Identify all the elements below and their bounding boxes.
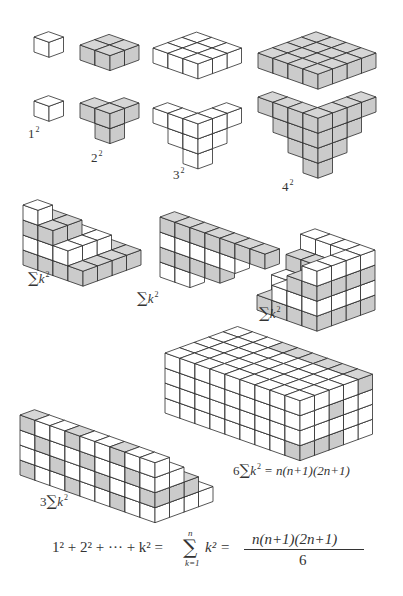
label-exp: 2 xyxy=(277,305,281,314)
fraction-bar xyxy=(244,549,364,550)
label-exp: 2 xyxy=(46,270,50,279)
formula-sum-term: k² = xyxy=(205,539,230,556)
label-var: k xyxy=(39,271,45,286)
label-exp: 2 xyxy=(155,290,159,299)
label-base: 1 xyxy=(28,126,35,141)
square-4-flat xyxy=(258,32,376,89)
label-rhs: = n(n+1)(2n+1) xyxy=(264,463,350,478)
label-sum-slanted: ∑k2 xyxy=(137,291,159,306)
sigma-symbol: ∑ xyxy=(240,461,251,479)
label-base: 3 xyxy=(173,167,180,182)
formula-sum-symbol: ∑ xyxy=(183,535,197,559)
sigma-symbol: ∑ xyxy=(28,269,39,287)
formula-denominator: 6 xyxy=(299,552,307,569)
square-2-flat xyxy=(80,34,139,70)
label-var: k xyxy=(148,291,154,306)
label-base: 2 xyxy=(91,150,98,165)
label-exp: 2 xyxy=(290,178,294,187)
label-exp: 2 xyxy=(36,125,40,134)
label-base: 4 xyxy=(282,179,289,194)
label-4-squared: 42 xyxy=(282,179,294,193)
square-4-layer xyxy=(258,92,376,179)
label-3-squared: 32 xyxy=(173,167,185,181)
label-sum-pyramid: ∑k2 xyxy=(28,271,50,286)
sum-of-squares-formula: 1² + 2² + ··· + k² = n ∑ k=1 k² = n(n+1)… xyxy=(52,533,372,567)
label-1-squared: 12 xyxy=(28,126,40,140)
square-2-layer xyxy=(80,98,139,144)
sum-slanted xyxy=(160,212,280,288)
label-exp: 2 xyxy=(99,149,103,158)
sigma-symbol: ∑ xyxy=(137,289,148,307)
formula-lhs: 1² + 2² + ··· + k² = xyxy=(52,539,163,556)
label-var: k xyxy=(250,463,256,478)
square-3-layer xyxy=(153,103,242,169)
sigma-symbol: ∑ xyxy=(47,492,58,510)
label-exp: 2 xyxy=(64,493,68,502)
six-sum-box xyxy=(165,327,373,461)
formula-sum-bottom: k=1 xyxy=(185,558,200,568)
label-2-squared: 22 xyxy=(91,150,103,164)
label-exp: 2 xyxy=(181,166,185,175)
label-var: k xyxy=(57,494,63,509)
label-sum-stair: ∑k2 xyxy=(259,306,281,321)
square-1-flat xyxy=(34,32,64,58)
square-1-layer xyxy=(34,96,64,122)
square-3-flat xyxy=(153,32,242,79)
sigma-symbol: ∑ xyxy=(259,304,270,322)
label-var: k xyxy=(270,306,276,321)
label-six-sum: 6∑k2= n(n+1)(2n+1) xyxy=(233,463,350,478)
label-exp: 2 xyxy=(257,462,261,471)
formula-numerator: n(n+1)(2n+1) xyxy=(252,531,337,548)
label-three-sum: 3∑k2 xyxy=(40,494,68,509)
